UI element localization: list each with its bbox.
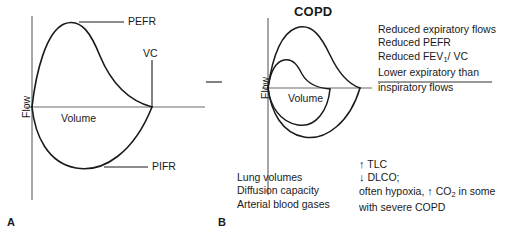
panel-b-x-axis-label: Volume <box>288 92 323 104</box>
copd-result-co2-subscript: 2 <box>451 189 455 198</box>
figure-flow-volume-loops: Flow Volume PEFR VC PIFR A COPD Flow Vol… <box>0 0 505 242</box>
vc-label: VC <box>143 47 158 59</box>
panel-b-title: COPD <box>294 6 332 18</box>
pifr-label: PIFR <box>152 160 176 172</box>
copd-test-2: Diffusion capacity <box>237 184 330 197</box>
copd-result-dlco: DLCO; <box>367 171 399 183</box>
copd-result-hypoxia: often hypoxia, <box>359 185 424 197</box>
copd-result-line-1: ↑ TLC <box>359 158 495 171</box>
panel-a-letter: A <box>7 216 15 228</box>
copd-result-insome: in some <box>459 185 496 197</box>
copd-results-list: ↑ TLC ↓ DLCO; often hypoxia, ↑ CO2 in so… <box>359 158 495 214</box>
copd-finding-3-suffix: / VC <box>448 50 468 62</box>
copd-test-1: Lung volumes <box>237 171 330 184</box>
copd-result-line-4: with severe COPD <box>359 201 495 214</box>
up-arrow-icon-2: ↑ <box>427 185 433 197</box>
panel-b-copd-expiratory-curve <box>268 60 330 89</box>
panel-b-letter: B <box>218 216 226 228</box>
copd-finding-4: Lower expiratory than <box>378 66 496 79</box>
copd-finding-1: Reduced expiratory flows <box>378 23 496 36</box>
panel-a-graphics <box>26 16 205 200</box>
copd-result-tlc: TLC <box>367 158 387 170</box>
copd-tests-list: Lung volumes Diffusion capacity Arterial… <box>237 171 330 211</box>
copd-findings-list: Reduced expiratory flows Reduced PEFR Re… <box>378 23 496 95</box>
panel-b-y-axis-label: Flow <box>259 77 271 99</box>
panel-a-y-axis-label: Flow <box>20 96 32 118</box>
panel-a-expiratory-curve <box>32 23 152 107</box>
copd-test-3: Arterial blood gases <box>237 198 330 211</box>
down-arrow-icon: ↓ <box>359 171 365 183</box>
copd-finding-5: inspiratory flows <box>378 81 496 94</box>
copd-result-line-3: often hypoxia, ↑ CO2 in some <box>359 185 495 201</box>
panel-b-normal-expiratory-curve <box>268 27 360 88</box>
copd-finding-2: Reduced PEFR <box>378 36 496 49</box>
up-arrow-icon: ↑ <box>359 158 365 170</box>
copd-finding-3-prefix: Reduced FEV <box>378 50 443 62</box>
copd-result-line-2: ↓ DLCO; <box>359 171 495 184</box>
copd-finding-3: Reduced FEV1/ VC <box>378 50 496 66</box>
panel-a-x-axis-label: Volume <box>61 112 96 124</box>
pefr-label: PEFR <box>128 15 156 27</box>
copd-result-co2: CO <box>436 185 452 197</box>
